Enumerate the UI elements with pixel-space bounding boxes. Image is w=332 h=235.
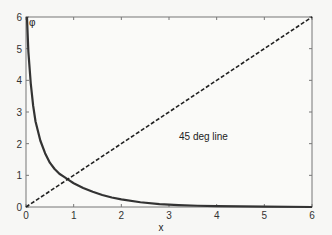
x-tick-label: 1 bbox=[71, 210, 77, 221]
y-tick-label: 3 bbox=[16, 107, 22, 118]
chart: 0123456012345645 deg linexφ bbox=[0, 0, 332, 235]
y-tick-label: 1 bbox=[16, 170, 22, 181]
x-tick-label: 4 bbox=[214, 210, 220, 221]
y-tick-label: 5 bbox=[16, 44, 22, 55]
x-tick-label: 6 bbox=[309, 210, 315, 221]
annotation-label: 45 deg line bbox=[179, 131, 228, 142]
y-tick-label: 0 bbox=[16, 202, 22, 213]
y-axis-label: φ bbox=[29, 17, 36, 28]
y-tick-label: 6 bbox=[16, 12, 22, 23]
x-axis-label: x bbox=[159, 222, 164, 233]
x-tick-label: 5 bbox=[262, 210, 268, 221]
x-tick-label: 3 bbox=[166, 210, 172, 221]
x-tick-label: 2 bbox=[119, 210, 125, 221]
y-tick-label: 2 bbox=[16, 139, 22, 150]
x-tick-label: 0 bbox=[23, 210, 29, 221]
y-tick-label: 4 bbox=[16, 75, 22, 86]
